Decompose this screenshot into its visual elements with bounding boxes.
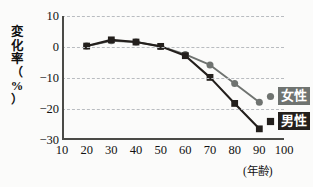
chart-container: 変 化 率 （ % ） 10 0 −10 −20 −30 10203040506… <box>0 0 313 187</box>
x-tick-label: 30 <box>98 144 124 157</box>
data-point-marker <box>182 52 189 59</box>
gridline-0 <box>62 47 284 48</box>
data-point-marker <box>108 36 115 43</box>
plot-area <box>62 16 284 140</box>
y-axis-title-char-5: ） <box>2 94 32 108</box>
legend-label-male: 男性 <box>278 112 310 130</box>
legend-label-female: 女性 <box>278 87 310 105</box>
y-axis-title-char-2: 率 <box>2 53 32 67</box>
data-point-marker <box>207 61 214 68</box>
legend-marker-circle-icon <box>266 92 275 101</box>
y-axis-title-char-1: 化 <box>2 40 32 54</box>
x-tick-label: 80 <box>222 144 248 157</box>
x-axis-ticks: 102030405060708090100 <box>0 144 313 162</box>
y-axis-title-char-4: % <box>2 80 32 94</box>
x-tick-label: 70 <box>197 144 223 157</box>
x-tick-label: 60 <box>172 144 198 157</box>
legend-item-female: 女性 <box>266 87 310 105</box>
x-tick-label: 40 <box>123 144 149 157</box>
data-point-marker <box>256 99 263 106</box>
y-axis-title-char-3: （ <box>2 67 32 81</box>
x-tick-label: 10 <box>49 144 75 157</box>
x-tick-label: 100 <box>271 144 297 157</box>
x-tick-label: 20 <box>74 144 100 157</box>
data-point-marker <box>231 100 238 107</box>
data-point-marker <box>256 125 263 132</box>
data-point-marker <box>133 39 140 46</box>
x-tick-label: 90 <box>246 144 272 157</box>
y-tick-label: −20 <box>33 103 59 116</box>
x-axis-title: (年齢) <box>243 162 273 178</box>
y-axis-line <box>62 16 64 140</box>
y-tick-label: 0 <box>33 41 59 54</box>
x-axis-line <box>62 138 284 140</box>
x-tick-label: 50 <box>148 144 174 157</box>
y-tick-label: 10 <box>33 10 59 23</box>
gridline-10 <box>62 16 284 17</box>
y-axis-title: 変 化 率 （ % ） <box>2 26 32 107</box>
gridline-neg20 <box>62 109 284 110</box>
y-axis-title-char-0: 変 <box>2 26 32 40</box>
gridline-neg10 <box>62 78 284 79</box>
y-tick-label: −10 <box>33 72 59 85</box>
legend-marker-square-icon <box>266 117 275 126</box>
legend-item-male: 男性 <box>266 112 310 130</box>
data-point-marker <box>231 80 238 87</box>
